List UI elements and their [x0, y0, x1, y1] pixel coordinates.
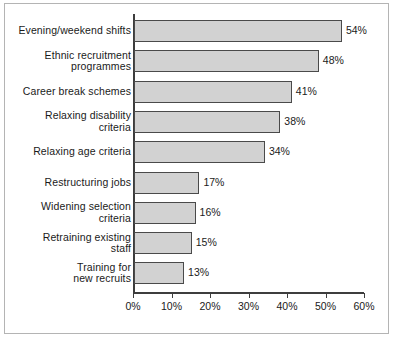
category-label: Training for new recruits — [73, 262, 131, 285]
category-label: Evening/weekend shifts — [18, 25, 131, 37]
x-axis-tick — [133, 293, 134, 298]
bar — [134, 262, 184, 284]
bar-value-label: 15% — [196, 237, 217, 248]
x-axis-tick-label: 50% — [306, 300, 346, 312]
x-axis-tick-label: 20% — [190, 300, 230, 312]
bar-value-label: 34% — [269, 146, 290, 157]
bar — [134, 202, 196, 224]
x-axis-tick-label: 40% — [267, 300, 307, 312]
x-axis-tick-label: 30% — [229, 300, 269, 312]
bar — [134, 141, 265, 163]
bar-value-label: 48% — [323, 55, 344, 66]
category-label: Relaxing age criteria — [33, 146, 131, 158]
category-label: Ethnic recruitment programmes — [45, 50, 131, 73]
bar — [134, 81, 292, 103]
category-label: Relaxing disability criteria — [45, 110, 131, 133]
category-label: Widening selection criteria — [41, 201, 131, 224]
bar — [134, 232, 192, 254]
bar-value-label: 13% — [188, 267, 209, 278]
x-axis-tick — [249, 293, 250, 298]
plot-area: 54%Evening/weekend shifts48%Ethnic recru… — [0, 0, 393, 338]
bar-value-label: 38% — [284, 116, 305, 127]
bar — [134, 20, 342, 42]
category-label: Career break schemes — [23, 86, 131, 98]
category-label: Restructuring jobs — [45, 177, 131, 189]
category-label: Retraining existing staff — [43, 232, 131, 255]
x-axis-tick-label: 10% — [152, 300, 192, 312]
x-axis-tick — [326, 293, 327, 298]
bar-value-label: 41% — [296, 86, 317, 97]
bar — [134, 50, 319, 72]
bar — [134, 172, 199, 194]
x-axis-tick-label: 0% — [113, 300, 153, 312]
x-axis-tick-label: 60% — [344, 300, 384, 312]
bar-value-label: 54% — [346, 25, 367, 36]
chart-figure: 54%Evening/weekend shifts48%Ethnic recru… — [0, 0, 393, 338]
x-axis-tick — [172, 293, 173, 298]
x-axis-tick — [287, 293, 288, 298]
bar-value-label: 17% — [203, 177, 224, 188]
bar-value-label: 16% — [200, 207, 221, 218]
bar — [134, 111, 280, 133]
x-axis-tick — [210, 293, 211, 298]
x-axis-tick — [364, 293, 365, 298]
